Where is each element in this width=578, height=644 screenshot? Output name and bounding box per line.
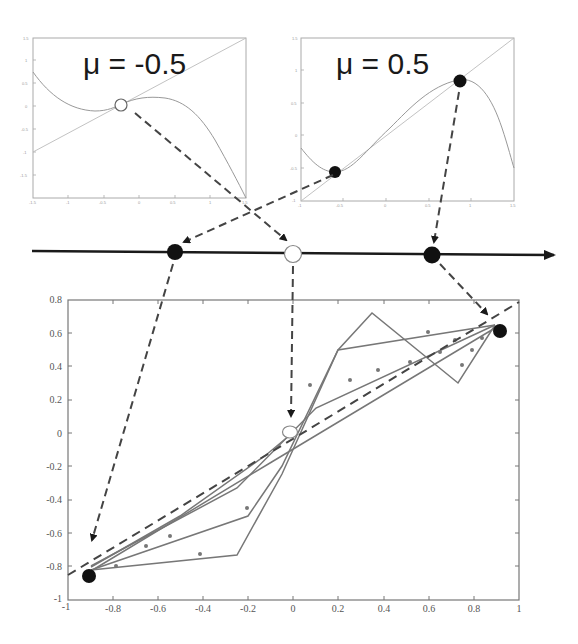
svg-text:1.5: 1.5 [292,36,298,41]
svg-text:0: 0 [295,133,298,138]
svg-text:0: 0 [291,603,296,614]
svg-text:-0.5: -0.5 [21,127,29,132]
left-inset-title: μ = -0.5 [83,47,186,80]
main-plot-x-tick-labels: -1 -0.8 -0.6 -0.4 -0.2 0 0.2 0.4 0.6 0.8… [62,601,522,614]
svg-text:-0.6: -0.6 [46,528,62,539]
right-inset-plot: 1.5 1 0.5 0 -0.5 -1 -1 -0.5 0 0.5 1 1.5 … [290,36,516,208]
svg-text:-0.2: -0.2 [46,461,62,472]
svg-text:-1.5: -1.5 [20,173,28,178]
right-inset-x-tick-labels: -1 -0.5 0 0.5 1 1.5 [298,203,516,208]
right-inset-title: μ = 0.5 [336,47,429,80]
svg-text:-0.2: -0.2 [240,603,256,614]
svg-text:0: 0 [57,428,62,439]
left-inset-plot: 1.5 1 0.5 0 -0.5 -1 -1.5 -1.5 -1 -0.5 0 … [20,36,248,205]
svg-text:-0.6: -0.6 [150,603,166,614]
svg-text:1: 1 [469,203,472,208]
svg-text:-0.5: -0.5 [290,166,298,171]
svg-text:-1.5: -1.5 [29,200,37,205]
svg-text:-1: -1 [23,150,27,155]
number-line-point-negative-stable [167,244,183,260]
main-plot-stable-point-negative [82,569,96,583]
svg-text:0.2: 0.2 [50,394,63,405]
svg-text:0: 0 [138,200,141,205]
figure-canvas: 1.5 1 0.5 0 -0.5 -1 -1.5 -1.5 -1 -0.5 0 … [0,0,578,644]
main-plot-unstable-point-zero [283,426,298,438]
svg-text:-1: -1 [292,198,296,203]
main-plot-stable-point-positive [493,324,507,338]
number-line-point-positive-stable [424,247,441,264]
left-inset-x-tick-labels: -1.5 -1 -0.5 0 0.5 1 1.5 [29,200,248,205]
left-inset-y-tick-labels: 1.5 1 0.5 0 -0.5 -1 -1.5 [20,36,29,178]
number-line-point-zero-unstable [285,246,302,263]
svg-text:-0.5: -0.5 [99,200,107,205]
svg-text:-0.4: -0.4 [195,603,211,614]
svg-text:0: 0 [25,104,28,109]
svg-text:1.5: 1.5 [242,200,248,205]
svg-text:0.5: 0.5 [22,81,28,86]
svg-text:0: 0 [384,203,387,208]
svg-text:0.5: 0.5 [425,203,431,208]
main-plot-y-tick-labels: 0.8 0.6 0.4 0.2 0 -0.2 -0.4 -0.6 -0.8 -1 [46,294,62,604]
svg-text:-1: -1 [66,200,70,205]
svg-text:1.5: 1.5 [510,203,516,208]
svg-text:0.4: 0.4 [378,603,391,614]
svg-text:0.5: 0.5 [170,200,176,205]
svg-text:-1: -1 [298,203,302,208]
svg-text:1: 1 [517,603,522,614]
svg-text:0.8: 0.8 [50,294,63,305]
svg-text:0.6: 0.6 [423,603,436,614]
svg-text:0.2: 0.2 [332,603,345,614]
svg-text:-0.8: -0.8 [46,561,62,572]
svg-text:1: 1 [209,200,212,205]
svg-text:0.6: 0.6 [50,328,63,339]
svg-text:0.8: 0.8 [468,603,481,614]
svg-text:-0.5: -0.5 [336,203,344,208]
svg-text:1: 1 [25,58,28,63]
svg-text:-1: -1 [54,593,62,604]
svg-text:1: 1 [295,68,298,73]
svg-text:-0.4: -0.4 [46,494,62,505]
svg-text:-0.8: -0.8 [105,603,121,614]
svg-text:-1: -1 [62,601,70,612]
svg-text:0.4: 0.4 [50,361,63,372]
left-inset-unstable-fixed-point [115,99,127,111]
right-inset-stable-fixed-point-positive [454,75,467,88]
svg-text:1.5: 1.5 [23,36,29,41]
right-inset-y-tick-labels: 1.5 1 0.5 0 -0.5 -1 [290,36,298,203]
svg-text:0.5: 0.5 [291,101,297,106]
